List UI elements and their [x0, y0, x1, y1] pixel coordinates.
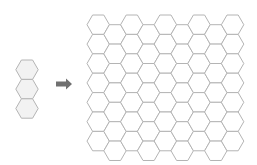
- grid-hexagon: [221, 112, 243, 131]
- grid-hexagon: [221, 73, 243, 92]
- source-hexagon: [16, 79, 38, 98]
- grid-hexagon: [221, 93, 243, 112]
- honeycomb-grid: [87, 15, 244, 160]
- source-hexagon-stack: [16, 60, 38, 118]
- grid-hexagon: [221, 15, 243, 34]
- source-hexagon: [16, 99, 38, 118]
- arrow-shape: [56, 79, 72, 90]
- grid-hexagon: [221, 131, 243, 150]
- grid-hexagon: [221, 54, 243, 73]
- hexagon-expansion-diagram: [0, 0, 257, 165]
- grid-hexagon: [221, 34, 243, 53]
- right-arrow-icon: [56, 79, 72, 90]
- source-hexagon: [16, 60, 38, 79]
